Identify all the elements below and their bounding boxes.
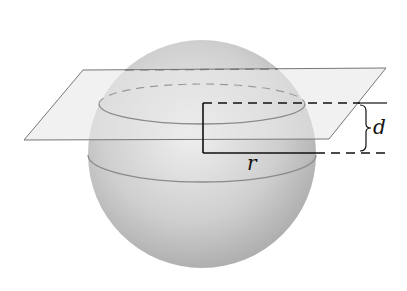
- radius-label: r: [247, 151, 258, 175]
- cutting-plane: [24, 68, 386, 140]
- sphere-plane-diagram: d r: [0, 0, 407, 291]
- distance-label: d: [373, 115, 386, 139]
- distance-brace: [360, 105, 371, 151]
